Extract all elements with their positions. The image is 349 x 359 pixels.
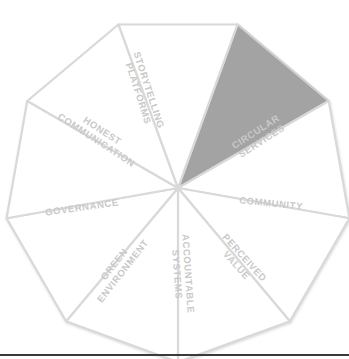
wedge-group (7, 24, 349, 359)
nonagon-wheel-diagram: CONSCIOUSITEMCIRCULARSERVICESCOMMUNITYPE… (0, 0, 349, 359)
diagram-canvas: CONSCIOUSITEMCIRCULARSERVICESCOMMUNITYPE… (0, 0, 349, 359)
bottom-divider-rule (0, 354, 349, 356)
